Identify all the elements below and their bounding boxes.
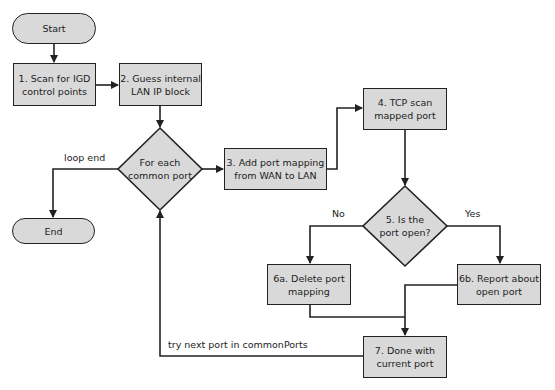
step6a-box: 6a. Delete port mapping	[267, 264, 351, 305]
flowchart-edges	[0, 0, 555, 390]
flowchart: Start 1. Scan for IGD control points 2. …	[0, 0, 555, 390]
step5-line1: 5. Is the	[365, 213, 445, 226]
edge-step5-step6a	[310, 226, 363, 263]
step6a-line1: 6a. Delete port	[273, 272, 345, 285]
step3-box: 3. Add port mapping from WAN to LAN	[224, 148, 327, 190]
no-label: No	[332, 208, 345, 219]
step1-line1: 1. Scan for IGD	[19, 72, 91, 85]
loop-line2: common port	[120, 169, 200, 182]
step7-line2: current port	[377, 357, 434, 370]
step3-line1: 3. Add port mapping	[227, 156, 325, 169]
loop-diamond-text: For each common port	[120, 156, 200, 182]
step7-box: 7. Done with current port	[363, 336, 447, 378]
step6b-box: 6b. Report about open port	[457, 264, 541, 305]
step4-box: 4. TCP scan mapped port	[363, 88, 447, 130]
edge-step6a-step7	[310, 304, 405, 317]
loop-line1: For each	[120, 156, 200, 169]
step4-line2: mapped port	[374, 109, 436, 122]
yes-label: Yes	[465, 208, 480, 219]
start-terminal: Start	[12, 13, 96, 44]
step2-line1: 2. Guess internal	[120, 72, 201, 85]
edge-step3-step4	[326, 108, 362, 169]
start-label: Start	[42, 22, 65, 35]
step1-box: 1. Scan for IGD control points	[13, 63, 96, 106]
step6b-line1: 6b. Report about	[459, 272, 539, 285]
step2-box: 2. Guess internal LAN IP block	[119, 63, 202, 106]
loop-end-label: loop end	[64, 152, 105, 163]
end-label: End	[44, 225, 62, 238]
decision-diamond-text: 5. Is the port open?	[365, 213, 445, 239]
edge-step5-step6b	[447, 226, 500, 263]
end-terminal: End	[12, 218, 95, 244]
step3-line2: from WAN to LAN	[234, 169, 316, 182]
step7-line1: 7. Done with	[375, 344, 435, 357]
step6a-line2: mapping	[288, 285, 330, 298]
step5-line2: port open?	[365, 226, 445, 239]
edge-step6b-step7	[405, 285, 457, 335]
step1-line2: control points	[22, 85, 87, 98]
edge-loop-end	[53, 169, 118, 217]
try-next-label: try next port in commonPorts	[168, 339, 308, 350]
step2-line2: LAN IP block	[131, 85, 190, 98]
step6b-line2: open port	[476, 285, 522, 298]
step4-line1: 4. TCP scan	[378, 96, 433, 109]
